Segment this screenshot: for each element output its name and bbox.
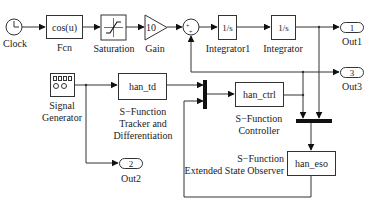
- signal-generator-block[interactable]: [50, 73, 75, 97]
- mux-block[interactable]: [203, 80, 207, 109]
- integrator1-label: Integrator1: [200, 43, 256, 54]
- signal-generator-icon: [53, 76, 72, 81]
- junction-dot: [318, 26, 320, 28]
- integrator-label: Integrator: [255, 43, 311, 54]
- out2-label: Out2: [116, 173, 146, 184]
- bottom-mux-block[interactable]: [296, 119, 332, 123]
- out3-label: Out3: [337, 81, 367, 92]
- integrator1-block[interactable]: 1/s: [218, 15, 237, 40]
- han-eso-block[interactable]: han_eso: [287, 151, 336, 176]
- signal-generator-label-1: Signal: [38, 100, 86, 111]
- saturation-label: Saturation: [90, 43, 138, 54]
- han-ctrl-label-2: Controller: [222, 125, 296, 136]
- clock-icon[interactable]: [6, 19, 22, 35]
- sum-block[interactable]: + +: [183, 19, 199, 35]
- han-ctrl-label-1: S−Function: [222, 113, 296, 124]
- integrator-block[interactable]: 1/s: [271, 15, 296, 40]
- fcn-block[interactable]: cos(u): [46, 15, 83, 39]
- fcn-label: Fcn: [46, 42, 83, 53]
- han-td-label-1: S−Function: [106, 106, 180, 117]
- han-ctrl-block[interactable]: han_ctrl: [235, 82, 284, 107]
- gain-label: Gain: [140, 43, 170, 54]
- han-td-label-2: Tracker and: [106, 118, 180, 129]
- junction-dot: [85, 84, 87, 86]
- out3-port[interactable]: 3: [340, 67, 364, 78]
- signal-generator-label-2: Generator: [38, 112, 86, 123]
- junction-dot: [302, 71, 304, 73]
- gain-value: 10: [146, 22, 160, 33]
- han-td-label-3: Differentiation: [106, 130, 180, 141]
- out1-label: Out1: [337, 36, 367, 47]
- out2-port[interactable]: 2: [119, 158, 143, 169]
- junction-dot: [302, 94, 304, 96]
- clock-label: Clock: [0, 38, 30, 49]
- out1-port[interactable]: 1: [340, 22, 364, 33]
- han-eso-label-1: S−Function: [196, 153, 284, 164]
- han-td-block[interactable]: han_td: [118, 73, 167, 100]
- saturation-block[interactable]: [101, 15, 126, 40]
- wire-feedback-sum: [191, 36, 303, 72]
- han-eso-label-2: Extended State Observer: [176, 165, 284, 176]
